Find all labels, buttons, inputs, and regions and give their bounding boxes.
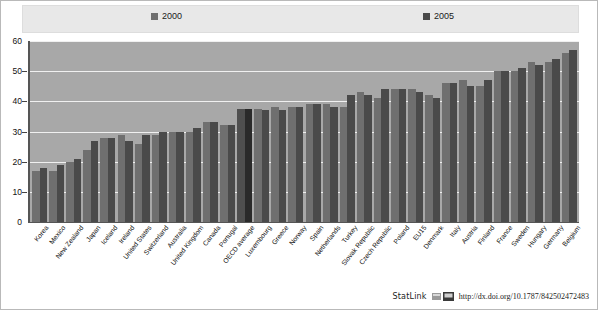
bar-2005 (296, 107, 304, 222)
bar-group (458, 41, 475, 222)
bar-group (561, 41, 578, 222)
bar-group (339, 41, 356, 222)
bar-group (65, 41, 82, 222)
bar-2000 (545, 62, 553, 222)
bar-2000 (186, 132, 194, 223)
bar-2005 (228, 125, 236, 222)
bar-2000 (391, 89, 399, 222)
y-axis-tick-label: 30 (13, 127, 22, 137)
bar-2005 (313, 104, 321, 222)
bar-2000 (494, 71, 502, 222)
bar-2000 (237, 109, 245, 222)
legend-label-2000: 2000 (162, 12, 182, 21)
bar-2005 (364, 95, 372, 222)
bar-series-container (30, 41, 579, 222)
bar-2005 (193, 128, 201, 222)
bar-2000 (425, 95, 433, 222)
x-axis-label: Poland (392, 224, 411, 245)
bar-group (424, 41, 441, 222)
bar-2000 (357, 92, 365, 222)
x-axis-label: Finland (477, 224, 496, 246)
bar-2000 (340, 107, 348, 222)
bar-2005 (176, 132, 184, 223)
chart-legend: 2000 2005 (22, 5, 579, 33)
bar-2000 (408, 89, 416, 222)
bar-group (493, 41, 510, 222)
bar-2005 (91, 141, 99, 222)
x-axis-label: Italy (448, 224, 461, 238)
bar-2000 (203, 122, 211, 222)
bar-group (82, 41, 99, 222)
chart-page: 2000 2005 0102030405060 KoreaMexicoNew Z… (0, 0, 599, 311)
bar-2000 (49, 171, 57, 222)
y-axis-tick-label: 60 (13, 36, 22, 46)
bar-2000 (220, 125, 228, 222)
y-axis-tick-mark (22, 162, 27, 163)
statlink-url[interactable]: http://dx.doi.org/10.1787/842502472483 (459, 292, 589, 301)
bar-2005 (262, 110, 270, 222)
y-axis-tick-mark (22, 71, 27, 72)
legend-label-2005: 2005 (434, 12, 454, 21)
bar-2000 (511, 71, 519, 222)
bar-group (544, 41, 561, 222)
bar-2005 (210, 122, 218, 222)
bar-2000 (254, 109, 262, 222)
y-axis-tick-label: 10 (13, 187, 22, 197)
bar-2005 (125, 141, 133, 222)
bar-2000 (306, 104, 314, 222)
x-axis-label: Norway (287, 224, 307, 246)
bar-group (151, 41, 168, 222)
bar-2005 (74, 159, 82, 222)
legend-item-2000: 2000 (151, 12, 182, 21)
bar-group (31, 41, 48, 222)
bar-group (305, 41, 322, 222)
y-axis: 0102030405060 (0, 36, 26, 228)
bar-group (116, 41, 133, 222)
bar-group (356, 41, 373, 222)
bar-2000 (169, 132, 177, 223)
bar-group (134, 41, 151, 222)
x-axis-label: Iceland (99, 224, 118, 246)
statlink-footer: StatLink http://dx.doi.org/10.1787/84250… (0, 288, 599, 304)
legend-item-2005: 2005 (423, 12, 454, 21)
bar-2000 (32, 171, 40, 222)
bar-2000 (374, 98, 382, 222)
bar-2005 (40, 168, 48, 222)
bar-2000 (442, 83, 450, 222)
x-axis-label: Spain (308, 224, 324, 242)
bar-2000 (118, 135, 126, 222)
x-axis-label: Greece (271, 224, 290, 246)
bar-2005 (535, 65, 543, 222)
bar-group (270, 41, 287, 222)
y-axis-tick-label: 20 (13, 157, 22, 167)
x-axis-labels: KoreaMexicoNew ZealandJapanIcelandIrelan… (28, 224, 577, 286)
bar-group (48, 41, 65, 222)
bar-2005 (467, 86, 475, 222)
bar-group (373, 41, 390, 222)
bar-2005 (518, 68, 526, 222)
bar-2005 (159, 132, 167, 223)
bar-2000 (83, 150, 91, 222)
bar-group (390, 41, 407, 222)
y-axis-tick-mark (22, 101, 27, 102)
bar-2005 (381, 89, 389, 222)
bar-group (510, 41, 527, 222)
bar-2005 (330, 107, 338, 222)
bar-group (99, 41, 116, 222)
bar-group (441, 41, 458, 222)
bar-2000 (135, 144, 143, 222)
bar-group (202, 41, 219, 222)
bar-2000 (459, 80, 467, 222)
bar-group (527, 41, 544, 222)
bar-2005 (416, 92, 424, 222)
bar-group (168, 41, 185, 222)
bar-group (287, 41, 304, 222)
bar-2005 (142, 135, 150, 222)
statlink-icon (432, 287, 454, 305)
legend-swatch-2000 (151, 13, 158, 20)
bar-2000 (271, 107, 279, 222)
bar-2005 (569, 50, 577, 222)
bar-group (253, 41, 270, 222)
bar-group (322, 41, 339, 222)
x-axis-label: EU15 (411, 224, 427, 242)
